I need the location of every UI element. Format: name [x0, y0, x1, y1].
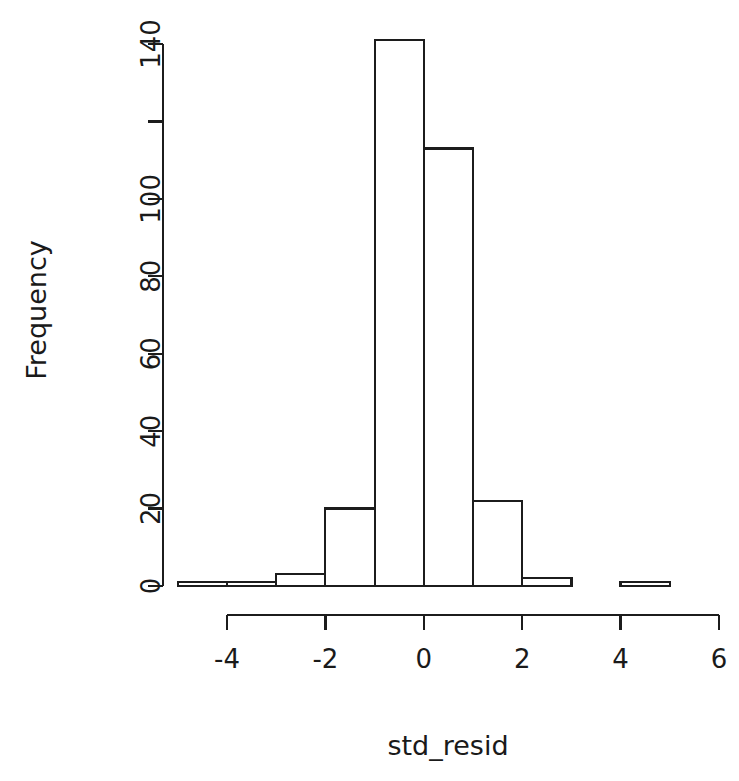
histogram-bar	[178, 582, 227, 586]
histogram-plot: Frequency std_resid 020406080100140 -4-2…	[0, 0, 739, 781]
x-axis-tick-label: 2	[514, 644, 531, 674]
histogram-bar	[325, 509, 374, 586]
y-axis-tick-label: 140	[136, 19, 166, 69]
histogram-bars	[178, 40, 670, 586]
x-axis-tick-label: 0	[416, 644, 433, 674]
x-axis-label: std_resid	[387, 730, 508, 761]
histogram-bar	[621, 582, 670, 586]
x-axis-tick-label: 4	[612, 644, 629, 674]
histogram-bar	[276, 574, 325, 586]
x-axis-tick-label: -4	[214, 644, 240, 674]
y-axis: 020406080100140	[136, 19, 166, 594]
y-axis-tick-label: 0	[136, 578, 166, 595]
x-axis-tick-label: 6	[711, 644, 728, 674]
histogram-bar	[522, 578, 571, 586]
y-axis-tick-label: 60	[136, 337, 166, 370]
histogram-bar	[227, 582, 276, 586]
x-axis-tick-label: -2	[312, 644, 338, 674]
histogram-bar	[473, 501, 522, 586]
y-axis-tick-label: 40	[136, 415, 166, 448]
plot-canvas: Frequency std_resid 020406080100140 -4-2…	[0, 0, 739, 781]
histogram-bar	[375, 40, 424, 586]
y-axis-tick-label: 20	[136, 492, 166, 525]
histogram-bar	[424, 149, 473, 586]
x-axis: -4-20246	[214, 615, 727, 674]
y-axis-tick-label: 80	[136, 260, 166, 293]
y-axis-label: Frequency	[21, 240, 52, 380]
y-axis-tick-label: 100	[136, 174, 166, 224]
